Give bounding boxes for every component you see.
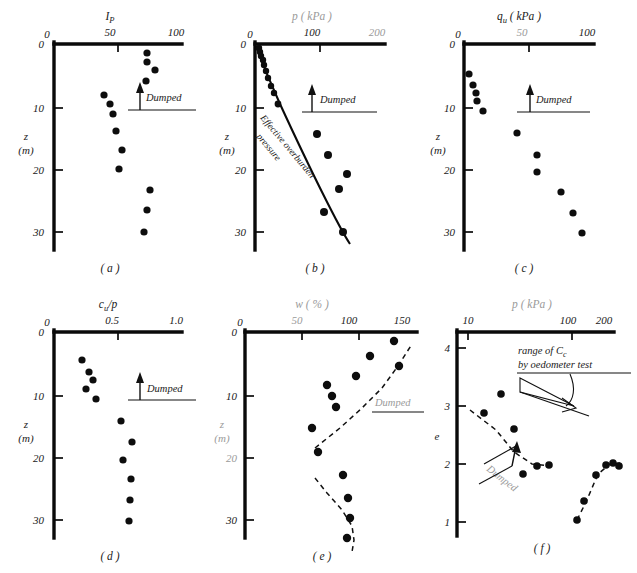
- panel-e-ytick-label-0: 0: [232, 326, 238, 338]
- panel-e-ytick-label-20: 20: [226, 452, 238, 464]
- panel-c-dumped-marker: Dumped: [517, 84, 590, 112]
- panel-d-dumped-marker: Dumped: [128, 372, 196, 400]
- panel-e-xtick-2: 100: [341, 314, 358, 326]
- panel-e-caption: ( e ): [313, 550, 332, 563]
- panel-b-xtick-2: 200: [369, 26, 386, 38]
- panel-d-title: cu/p: [99, 298, 118, 313]
- panel-d-caption: ( d ): [100, 550, 119, 563]
- panel-b-xtick-0: 0: [247, 28, 253, 40]
- panel-e-ytick-label-10: 10: [226, 390, 238, 402]
- panel-b: p ( kPa ) 0 100 200 0 10 20 30 z (m) Eff…: [212, 0, 424, 285]
- panel-b-caption: ( b ): [305, 262, 324, 275]
- panel-a-yaxis-units: (m): [18, 144, 34, 157]
- panel-e-yaxis-units: (m): [214, 432, 230, 445]
- panel-b-ytick-label-20: 20: [235, 164, 247, 176]
- panel-a: IP 0 50 100 0 10 20 30 z (m) Dumped: [0, 0, 212, 285]
- panel-e-xtick-3: 150: [394, 314, 411, 326]
- panel-c-caption: ( c ): [515, 262, 534, 275]
- panel-a-data-points: [100, 49, 158, 235]
- panel-b-dumped-marker: Dumped: [302, 84, 377, 112]
- panel-e-dumped-marker: Dumped: [372, 397, 424, 412]
- panel-d-data-points: [78, 356, 135, 524]
- panel-b-ytick-label-0: 0: [241, 38, 247, 50]
- panel-b-dumped-label: Dumped: [319, 94, 356, 105]
- panel-c-yaxis-name: z: [435, 130, 441, 142]
- panel-f-yaxis-name: e: [435, 430, 440, 442]
- panel-d-yaxis-name: z: [23, 418, 29, 430]
- panel-c-xtick-2: 100: [579, 26, 596, 38]
- panel-a-ytick-label-20: 20: [33, 164, 45, 176]
- panel-b-title: p ( kPa ): [291, 10, 332, 23]
- panel-c-xtick-1: 50: [517, 26, 529, 38]
- svg-text:IP: IP: [104, 10, 114, 25]
- panel-c-ytick-label-20: 20: [444, 164, 456, 176]
- panel-b-xtick-1: 100: [304, 26, 321, 38]
- panel-f-ytick-label-1: 1: [445, 516, 451, 528]
- panel-f: p ( kPa ) 10 100 200 4 3 2 1 e range of …: [424, 288, 637, 573]
- panel-a-caption: ( a ): [100, 262, 119, 275]
- panel-f-ytick-label-3: 3: [444, 400, 451, 412]
- panel-b-yaxis-name: z: [224, 130, 230, 142]
- panel-a-ytick-label-30: 30: [32, 226, 45, 238]
- panel-f-ytick-label-4: 4: [445, 342, 451, 354]
- panel-f-title: p ( kPa ): [511, 298, 552, 311]
- panel-a-dumped-label: Dumped: [145, 92, 182, 103]
- panel-f-oedometer-note: range of Cc by oedometer test: [517, 345, 631, 416]
- panel-e-ytick-label-30: 30: [225, 514, 238, 526]
- panel-e-xtick-0: 0: [237, 316, 243, 328]
- panel-f-dumped-marker: Dumped: [479, 441, 521, 494]
- panel-b-ytick-label-30: 30: [234, 226, 247, 238]
- panel-d-xtick-2: 1.0: [169, 314, 183, 326]
- panel-c: qu ( kPa ) 0 50 100 0 10 20 30 z (m) Dum…: [424, 0, 637, 285]
- panel-c-dumped-label: Dumped: [535, 94, 572, 105]
- panel-f-xtick-200: 200: [596, 314, 613, 326]
- panel-c-title: qu ( kPa ): [497, 10, 541, 25]
- panel-a-xtick-1: 50: [105, 26, 117, 38]
- panel-d-ytick-label-0: 0: [39, 326, 45, 338]
- panel-a-xtick-0: 0: [44, 28, 50, 40]
- panel-c-ytick-label-10: 10: [444, 102, 456, 114]
- panel-d-ytick-label-30: 30: [32, 514, 45, 526]
- panel-e-title: w ( % ): [295, 298, 329, 311]
- panel-c-ytick-label-30: 30: [443, 226, 456, 238]
- panel-d-xtick-1: 0.5: [105, 314, 119, 326]
- panel-f-trend-natural: [577, 463, 620, 520]
- panel-d-ytick-label-10: 10: [33, 390, 45, 402]
- panel-b-ytick-label-10: 10: [235, 102, 247, 114]
- panel-e-dumped-label: Dumped: [374, 397, 411, 408]
- figure-root: IP 0 50 100 0 10 20 30 z (m) Dumped: [0, 0, 637, 573]
- panel-a-ytick-label-0: 0: [39, 38, 45, 50]
- panel-b-yaxis-units: (m): [219, 144, 235, 157]
- panel-a-yaxis-name: z: [23, 130, 29, 142]
- panel-b-curve-label: Effective overburden pressure: [246, 112, 317, 190]
- panel-f-xtick-100: 100: [560, 314, 577, 326]
- panel-f-note-line1: range of Cc: [518, 345, 567, 359]
- panel-d-yaxis-units: (m): [18, 432, 34, 445]
- panel-c-xtick-0: 0: [455, 28, 461, 40]
- panel-f-data-points-natural: [573, 459, 623, 524]
- panel-d-dumped-label: Dumped: [146, 383, 183, 394]
- panel-a-xtick-2: 100: [168, 26, 185, 38]
- panel-f-ytick-label-2: 2: [445, 458, 451, 470]
- panel-d: cu/p 0 0.5 1.0 0 10 20 30 z (m) Dumped: [0, 288, 212, 573]
- panel-a-ytick-label-10: 10: [33, 102, 45, 114]
- panel-a-dumped-marker: Dumped: [128, 82, 196, 110]
- panel-e: w ( % ) 0 50 100 150 0 10 20 30 z (m) Du…: [212, 288, 424, 573]
- panel-c-yaxis-units: (m): [430, 144, 446, 157]
- panel-f-caption: ( f ): [534, 542, 551, 555]
- panel-e-data-points: [308, 337, 403, 542]
- panel-a-title: IP: [104, 10, 114, 25]
- panel-d-ytick-label-20: 20: [33, 452, 45, 464]
- panel-f-note-line2: by oedometer test: [518, 359, 593, 370]
- panel-f-xtick-10: 10: [463, 314, 475, 326]
- panel-d-xtick-0: 0: [44, 316, 50, 328]
- panel-c-ytick-label-0: 0: [450, 38, 456, 50]
- panel-e-yaxis-name: z: [219, 418, 225, 430]
- panel-e-xtick-1: 50: [292, 314, 304, 326]
- panel-f-trend-dumped: [470, 410, 550, 466]
